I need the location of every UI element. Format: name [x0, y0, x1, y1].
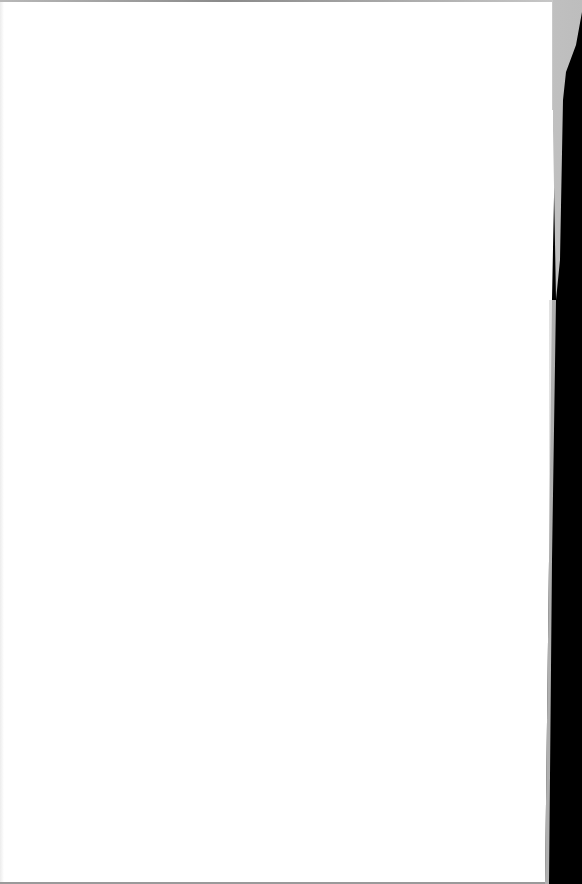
fold-line [552, 0, 553, 110]
blank-page [0, 0, 582, 884]
page-top-edge [0, 0, 560, 2]
scanned-document [0, 0, 582, 884]
page-left-shadow [0, 0, 4, 884]
